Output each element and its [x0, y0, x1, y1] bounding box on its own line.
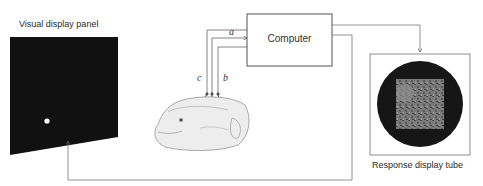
wire-label-b: b	[223, 72, 228, 83]
stimulus-dot	[44, 118, 49, 123]
wire-label-a: a	[229, 26, 234, 37]
computer-label: Computer	[247, 33, 332, 44]
visual-display-panel-label: Visual display panel	[19, 19, 98, 29]
response-display-tube-label: Response display tube	[372, 160, 463, 170]
response-display-tube	[370, 54, 470, 155]
wire-label-c: c	[197, 72, 201, 83]
visual-display-panel	[10, 37, 118, 155]
monkey-head-illustration	[155, 97, 249, 151]
computer-to-tube-wire	[332, 25, 420, 52]
